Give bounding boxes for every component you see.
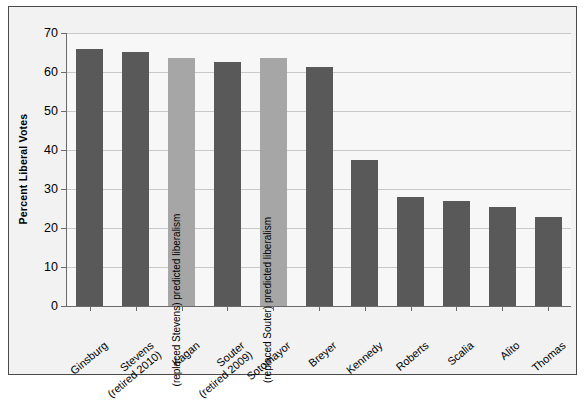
x-axis-tick [182,306,183,311]
gridline [67,33,571,34]
x-axis-tick [319,306,320,311]
plot-area: 010203040506070 (replaced Stevens) predi… [66,33,571,307]
x-axis-tick [456,306,457,311]
x-axis-label: Roberts [393,339,430,373]
x-axis-label: Ginsburg [68,339,110,377]
x-axis-label: Scalia [445,339,476,367]
x-axis-tick [227,306,228,311]
bar-ginsburg [76,49,103,306]
x-axis-tick [411,306,412,311]
y-axis-tick [61,228,67,229]
y-axis-tick-label: 10 [44,260,58,274]
bar-breyer [306,67,333,306]
bar-thomas [535,217,562,306]
x-axis-tick [365,306,366,311]
x-axis-label: Kennedy [344,339,385,376]
y-axis-tick-label: 60 [44,65,58,79]
y-axis-tick-label: 70 [44,26,58,40]
x-axis-tick [548,306,549,311]
x-axis-label: Alito [498,339,522,362]
bar-stevens [122,52,149,306]
bar-roberts [397,197,424,306]
y-axis-tick [61,150,67,151]
y-axis-tick-label: 30 [44,182,58,196]
x-axis-label: Thomas [530,339,568,374]
bar-sotomayor: (replaced Souter) predicted liberalism [260,58,287,306]
bar-alito [489,207,516,306]
bar-kagan: (replaced Stevens) predicted liberalism [168,58,195,306]
y-axis-tick [61,72,67,73]
y-axis-tick [61,111,67,112]
x-axis-tick [90,306,91,311]
x-axis-tick [502,306,503,311]
y-axis-tick-label: 0 [51,299,58,313]
y-axis-title: Percent Liberal Votes [17,114,29,225]
bar-kennedy [351,160,378,306]
y-axis-tick-label: 40 [44,143,58,157]
y-axis-tick [61,267,67,268]
y-axis-tick [61,306,67,307]
x-axis-tick [136,306,137,311]
chart-frame: Percent Liberal Votes 010203040506070 (r… [8,6,577,375]
x-axis-tick [273,306,274,311]
bar-souter [214,62,241,306]
y-axis-tick-label: 50 [44,104,58,118]
y-axis-tick [61,33,67,34]
y-axis-tick [61,189,67,190]
y-axis-tick-label: 20 [44,221,58,235]
bar-scalia [443,201,470,306]
x-axis-label: Breyer [306,339,339,369]
